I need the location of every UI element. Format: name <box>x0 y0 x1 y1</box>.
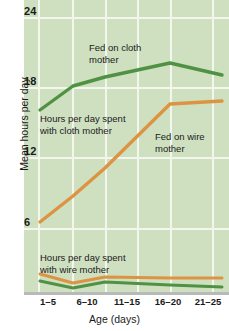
y-axis-title: Mean hours per day <box>18 64 30 184</box>
x-tick-16-20: 16–20 <box>155 296 181 307</box>
chart-figure: Fed on cloth mother Hours per day spent … <box>0 0 229 331</box>
x-tick-21-25: 21–25 <box>195 296 221 307</box>
x-tick-11-15: 11–15 <box>114 296 140 307</box>
x-axis-line <box>24 292 229 295</box>
x-tick-6-10: 6–10 <box>76 296 97 307</box>
x-tick-labels: 1–5 6–10 11–15 16–20 21–25 <box>0 296 229 312</box>
x-axis-title: Age (days) <box>0 313 229 325</box>
y-tick-labels: 24 18 12 6 <box>0 0 229 292</box>
y-tick-6: 6 <box>24 216 46 228</box>
y-tick-24: 24 <box>24 5 46 17</box>
x-tick-1-5: 1–5 <box>40 296 56 307</box>
